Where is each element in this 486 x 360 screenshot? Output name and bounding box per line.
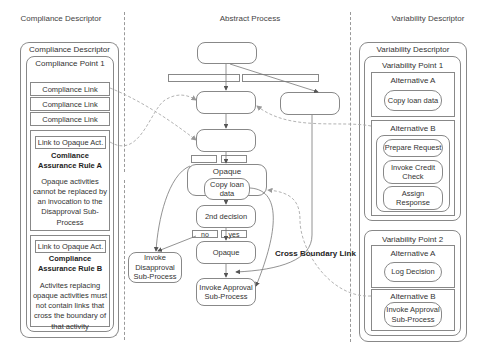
link-label-bar-right — [242, 74, 319, 82]
variability-column-header: Variability Descriptor — [370, 14, 486, 23]
variability-descriptor-title: Variability Descriptor — [359, 45, 467, 54]
activity-opaque[interactable]: Opaque — [196, 241, 256, 264]
link-label-bar-left — [168, 74, 240, 82]
compliance-point-title: Compliance Point 1 — [26, 59, 114, 68]
copy-loan-line: data — [220, 189, 235, 198]
rule-b-title: Compliance Assurance Rule B — [30, 254, 110, 274]
abstract-column-header: Abstract Process — [200, 14, 300, 23]
vp2-log-decision[interactable]: Log Decision — [384, 262, 442, 282]
vp1-alt-b-title: Alternative B — [371, 124, 455, 133]
compliance-link-line — [110, 95, 196, 146]
rule-a-title-line2: Assurance Rule A — [30, 161, 110, 171]
rule-a-desc-line: Disapproval Sub- — [30, 207, 110, 217]
rule-b-desc-line: Activites replacing — [30, 281, 110, 291]
compliance-link-2[interactable]: Compliance Link — [30, 97, 110, 111]
rule-a-desc-line: Process — [30, 218, 110, 228]
rule-b-title-line1: Compliance — [30, 254, 110, 264]
column-separator-right — [350, 12, 351, 342]
link-label-small-right — [221, 155, 247, 163]
copy-loan-line: Copy loan — [210, 180, 244, 189]
vp1-alt-a-copy-loan-data[interactable]: Copy loan data — [384, 90, 442, 111]
rule-a-desc-line: cannot be replaced by — [30, 187, 110, 197]
activity-invoke-disapproval[interactable]: Invoke Disapproval Sub-Process — [128, 252, 182, 283]
column-separator-left-lower — [124, 180, 125, 340]
assign-response-line: Assign — [402, 189, 425, 198]
rule-a-desc-line: an invocation to the — [30, 197, 110, 207]
assign-response-line: Response — [396, 198, 430, 207]
rule-a-desc-line: Opaque activities — [30, 177, 110, 187]
rule-a-link-to-opaque[interactable]: Link to Opaque Act. — [35, 136, 106, 149]
cross-boundary-link-line — [268, 190, 371, 296]
vp2-invoke-approval-line: Sub-Process — [392, 315, 435, 324]
invoke-disapproval-line: Sub-Process — [134, 272, 177, 281]
rule-b-desc-line: opaque activities must — [30, 291, 110, 301]
activity-invoke-approval[interactable]: Invoke Approval Sub-Process — [196, 278, 256, 306]
rule-a-description: Opaque activities cannot be replaced by … — [30, 177, 110, 228]
rule-b-desc-line: cross the boundary of — [30, 311, 110, 321]
invoke-disapproval-line: Invoke — [144, 253, 166, 262]
link-label-small-left — [191, 155, 217, 163]
vp2-invoke-approval-line: Invoke Approval — [386, 305, 439, 314]
vp2-alt-a-title: Alternative A — [371, 249, 455, 258]
vp1-assign-response[interactable]: Assign Response — [383, 186, 443, 210]
rule-a-title-line1: Comliance — [30, 151, 110, 161]
rule-b-title-line2: Assurance Rule B — [30, 264, 110, 274]
rule-b-description: Activites replacing opaque activities mu… — [30, 281, 110, 332]
invoke-approval-line: Sub-Process — [205, 292, 248, 301]
compliance-link-3[interactable]: Compliance Link — [30, 112, 110, 126]
activity-copy-loan-data[interactable]: Copy loan data — [204, 178, 250, 200]
flow-link — [156, 166, 190, 251]
invoke-disapproval-line: Disapproval — [135, 263, 175, 272]
activity-decision-1[interactable] — [196, 91, 256, 114]
activity-3[interactable] — [196, 129, 256, 152]
vp2-invoke-approval[interactable]: Invoke Approval Sub-Process — [384, 302, 442, 327]
invoke-credit-line: Check — [402, 172, 423, 181]
vp1-alt-a-title: Alternative A — [371, 76, 455, 85]
variability-point-2-title: Variability Point 2 — [364, 235, 461, 244]
vp2-alt-b-title: Alternative B — [371, 292, 455, 301]
rule-a-title: Comliance Assurance Rule A — [30, 151, 110, 171]
activity-2nd-decision[interactable]: 2nd decision — [196, 205, 256, 228]
compliance-link-1[interactable]: Compliance Link — [30, 82, 110, 96]
invoke-credit-line: Invoke Credit — [391, 163, 435, 172]
variability-point-1-title: Variability Point 1 — [364, 61, 461, 70]
rule-b-link-to-opaque[interactable]: Link to Opaque Act. — [35, 240, 106, 253]
cross-boundary-link-label: Cross Boundary Link — [275, 249, 356, 258]
invoke-approval-line: Invoke Approval — [199, 283, 252, 292]
activity-right-branch[interactable] — [280, 92, 340, 115]
compliance-link-line — [110, 88, 196, 140]
vp1-invoke-credit-check[interactable]: Invoke Credit Check — [383, 160, 443, 184]
compliance-column-header: Compliance Descriptor — [0, 14, 122, 23]
link-label-yes: yes — [221, 230, 247, 238]
flow-link-no — [158, 236, 196, 251]
compliance-descriptor-title: Compliance Descriptor — [20, 45, 119, 54]
link-label-no: no — [192, 230, 218, 238]
activity-start[interactable] — [197, 42, 257, 64]
rule-b-desc-line: not contain links that — [30, 301, 110, 311]
rule-b-desc-line: that activity — [30, 322, 110, 332]
flow-link — [250, 188, 273, 286]
column-separator-left — [124, 12, 125, 172]
vp1-prepare-request[interactable]: Prepare Request — [383, 139, 443, 157]
